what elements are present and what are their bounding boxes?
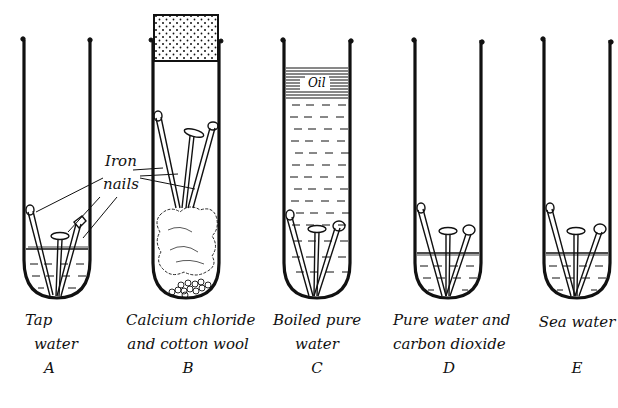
nail-icon (546, 203, 606, 296)
label-c-line1: Boiled pure (270, 310, 364, 331)
label-b-line1: Calcium chloride (126, 310, 250, 331)
oil-label: Oil (305, 76, 329, 90)
tube-e (541, 37, 613, 298)
label-a-letter: A (44, 358, 55, 379)
label-e-line1: Sea water (532, 312, 618, 333)
nail-icon (154, 111, 218, 208)
annotation-nails: nails (103, 175, 139, 193)
tube-d (412, 38, 484, 298)
label-a-line2: water (34, 334, 78, 355)
nail-icon (417, 203, 475, 296)
annotation-iron: Iron (105, 152, 137, 170)
tube-a (21, 37, 92, 298)
label-b-letter: B (126, 358, 250, 379)
tube-b (149, 15, 223, 298)
label-a-line1: Tap (25, 310, 52, 331)
label-c-letter: C (270, 358, 364, 379)
label-e-letter: E (532, 358, 618, 379)
label-d-line2: carbon dioxide (393, 334, 505, 355)
label-c-line2: water (270, 334, 364, 355)
nail-icon (26, 205, 86, 296)
stopper (154, 15, 218, 61)
label-d-letter: D (393, 358, 505, 379)
label-b-line2: and cotton wool (126, 334, 250, 355)
nail-icon (286, 210, 345, 296)
label-d-line1: Pure water and (393, 310, 505, 331)
cotton-wool (157, 207, 217, 275)
